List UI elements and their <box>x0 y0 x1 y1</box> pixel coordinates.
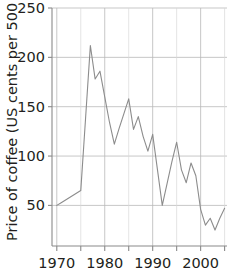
y-tick-label: 200 <box>17 49 45 65</box>
x-tick-label: 2000 <box>182 255 219 271</box>
y-axis-ticks <box>48 8 52 205</box>
x-tick-label: 1980 <box>86 255 123 271</box>
y-tick-label: 150 <box>17 99 45 115</box>
y-axis-title: Price of coffee (US cents per 500 g) <box>4 0 20 241</box>
chart-canvas: 50100150200250 1970198019902000 Price of… <box>0 0 243 278</box>
y-tick-label: 100 <box>17 148 45 164</box>
y-tick-label: 50 <box>27 197 45 213</box>
y-axis-tick-labels: 50100150200250 <box>17 0 45 213</box>
x-tick-label: 1990 <box>134 255 171 271</box>
y-tick-label: 250 <box>17 0 45 16</box>
x-axis-ticks <box>57 246 225 251</box>
x-axis-tick-labels: 1970198019902000 <box>38 255 219 271</box>
coffee-price-line-chart: 50100150200250 1970198019902000 Price of… <box>0 0 243 278</box>
x-tick-label: 1970 <box>38 255 75 271</box>
